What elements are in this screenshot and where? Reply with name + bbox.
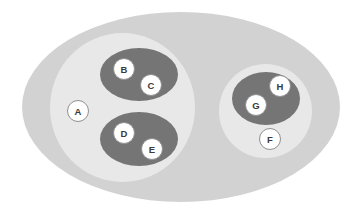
node-a: A <box>68 101 89 122</box>
leaf-set-bc <box>100 48 178 101</box>
node-d: D <box>114 123 135 144</box>
node-g: G <box>246 95 267 116</box>
nested-set-diagram: ABCDEFGH <box>0 0 362 214</box>
node-h: H <box>270 76 291 97</box>
leaf-set-gh <box>232 72 300 125</box>
node-label-f: F <box>267 134 273 145</box>
node-label-c: C <box>147 80 154 91</box>
node-label-d: D <box>120 128 127 139</box>
leaf-set-de <box>100 112 178 166</box>
node-label-h: H <box>276 81 283 92</box>
node-label-b: B <box>120 64 127 75</box>
node-e: E <box>142 139 163 160</box>
node-label-g: G <box>252 100 260 111</box>
node-f: F <box>260 129 281 150</box>
node-label-a: A <box>74 106 81 117</box>
node-b: B <box>114 59 135 80</box>
node-label-e: E <box>149 144 156 155</box>
diagram-canvas: ABCDEFGH <box>0 0 362 214</box>
node-c: C <box>141 75 162 96</box>
